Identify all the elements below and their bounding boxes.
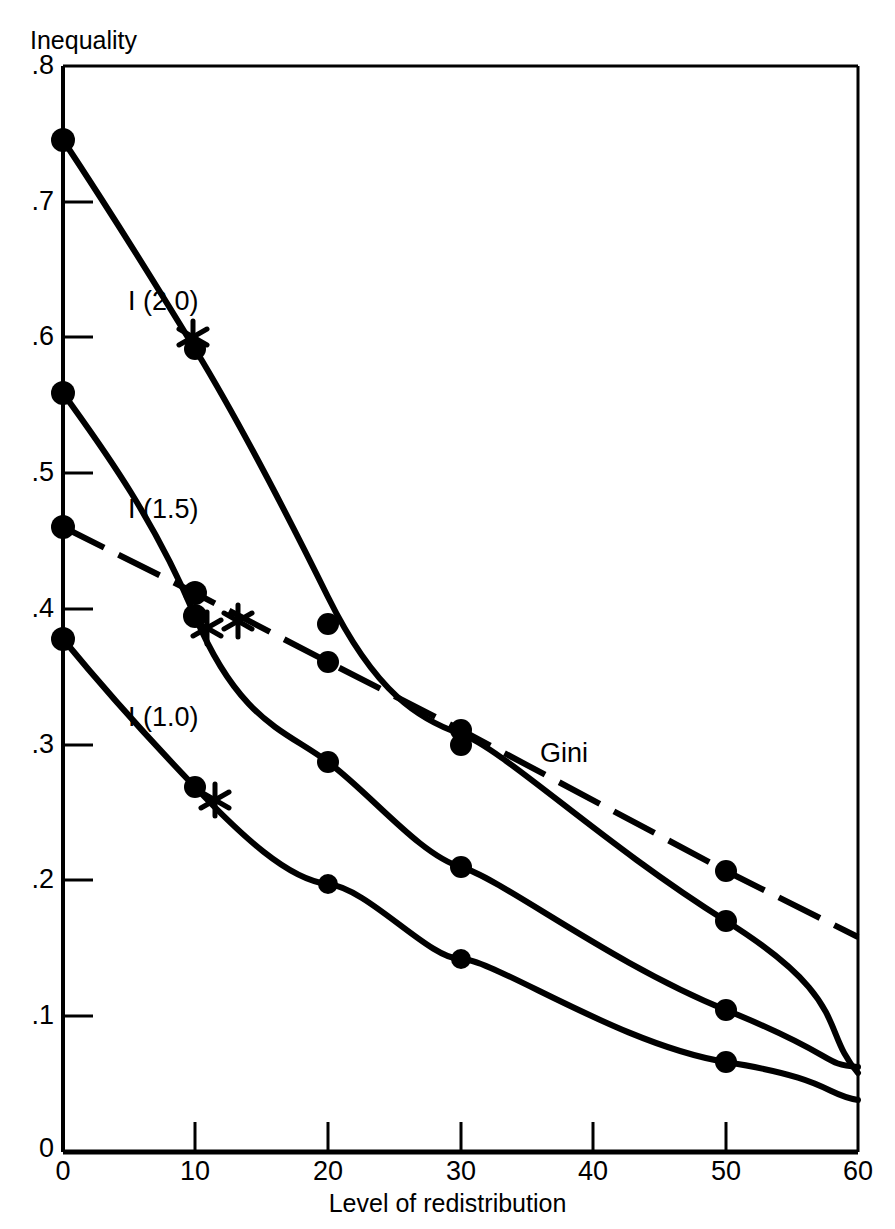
y-tick-label-0.8: .8 — [2, 50, 54, 81]
x-axis-title: Level of redistribution — [0, 1189, 895, 1218]
series-markers-i15 — [51, 381, 737, 1021]
x-tick-label-50: 50 — [696, 1156, 756, 1187]
x-tick-label-20: 20 — [298, 1156, 358, 1187]
x-axis-ticks — [195, 1122, 726, 1152]
y-tick-label-0.5: .5 — [2, 457, 54, 488]
chart-figure: Inequality — [0, 0, 895, 1229]
y-tick-label-0.1: .1 — [2, 1000, 54, 1031]
x-tick-label-30: 30 — [431, 1156, 491, 1187]
series-label-i10: I (1.0) — [128, 702, 199, 733]
y-tick-label-0.6: .6 — [2, 321, 54, 352]
y-axis-ticks — [63, 202, 93, 1016]
y-tick-label-0.3: .3 — [2, 729, 54, 760]
series-curve-i20 — [63, 140, 858, 1073]
y-tick-label-0.7: .7 — [2, 186, 54, 217]
x-tick-label-40: 40 — [563, 1156, 623, 1187]
series-label-gini: Gini — [540, 738, 588, 769]
chart-plot-area — [0, 0, 895, 1229]
y-tick-label-0.4: .4 — [2, 593, 54, 624]
x-tick-label-10: 10 — [165, 1156, 225, 1187]
series-label-i20: I (2.0) — [128, 286, 199, 317]
series-label-i15: I (1.5) — [128, 494, 199, 525]
x-tick-label-60: 60 — [828, 1156, 888, 1187]
axis-frame — [63, 66, 858, 1152]
x-tick-label-0: 0 — [33, 1156, 93, 1187]
y-tick-label-0.2: .2 — [2, 864, 54, 895]
